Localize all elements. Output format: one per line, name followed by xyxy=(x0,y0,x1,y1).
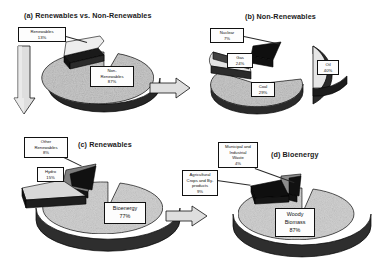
label-b-oil: Oil 40% xyxy=(317,60,339,75)
arrow-a-to-b xyxy=(148,76,192,100)
label-a-non-renewables: Non- Renewables 87% xyxy=(90,66,134,87)
label-c-bioenergy: Bioenergy 77% xyxy=(104,202,146,224)
label-a-non-renewables-line3: 87% xyxy=(93,79,131,85)
label-c-hydro: Hydro 15% xyxy=(37,167,64,182)
label-b-nuclear: Nuclear 7% xyxy=(210,28,244,43)
label-d-woody-biomass: Woody Biomass 87% xyxy=(275,208,315,237)
label-d-woody-line2: Biomass xyxy=(279,219,311,227)
label-a-renewables: Renewables 13% xyxy=(18,27,66,42)
label-c-bioenergy-line2: 77% xyxy=(108,213,142,221)
label-d-agri-line4: 9% xyxy=(185,189,215,195)
label-d-municipal-waste: Municipal and Industrial Waste 4% xyxy=(218,142,258,168)
figure-canvas: (a) Renewables vs. Non-Renewables Renewa… xyxy=(0,0,378,268)
label-c-hydro-line2: 15% xyxy=(40,175,61,181)
label-d-woody-line1: Woody xyxy=(279,211,311,219)
label-c-other-renewables: Other Renewables 8% xyxy=(24,137,68,158)
label-c-other-line3: 8% xyxy=(27,150,65,156)
panel-a: (a) Renewables vs. Non-Renewables Renewa… xyxy=(0,0,189,134)
panel-c: (c) Renewables Other Renewables 8% Hydro… xyxy=(0,134,189,268)
label-b-gas-line2: 24% xyxy=(230,61,250,67)
panel-d: (d) Bioenergy Municipal and Industrial W… xyxy=(189,134,378,268)
label-b-coal: Coal 29% xyxy=(251,82,275,97)
label-d-waste-line4: 4% xyxy=(221,161,255,167)
label-b-coal-line2: 29% xyxy=(254,90,272,96)
label-c-bioenergy-line1: Bioenergy xyxy=(108,205,142,213)
label-d-waste-line1: Municipal and xyxy=(221,144,255,150)
label-b-nuclear-line2: 7% xyxy=(213,36,241,42)
panel-b-pie xyxy=(189,0,378,134)
arrow-c-to-d xyxy=(164,204,210,228)
arrow-a-to-c xyxy=(14,44,38,118)
label-a-renewables-line2: 13% xyxy=(21,35,63,41)
label-d-woody-line3: 87% xyxy=(279,227,311,235)
label-d-agricultural-crops: Agricultural Crops and By- products 9% xyxy=(182,170,218,196)
panel-b: (b) Non-Renewables Nuclear 7% xyxy=(189,0,378,134)
label-b-gas: Gas 24% xyxy=(227,53,253,68)
label-b-oil-line2: 40% xyxy=(320,68,336,74)
